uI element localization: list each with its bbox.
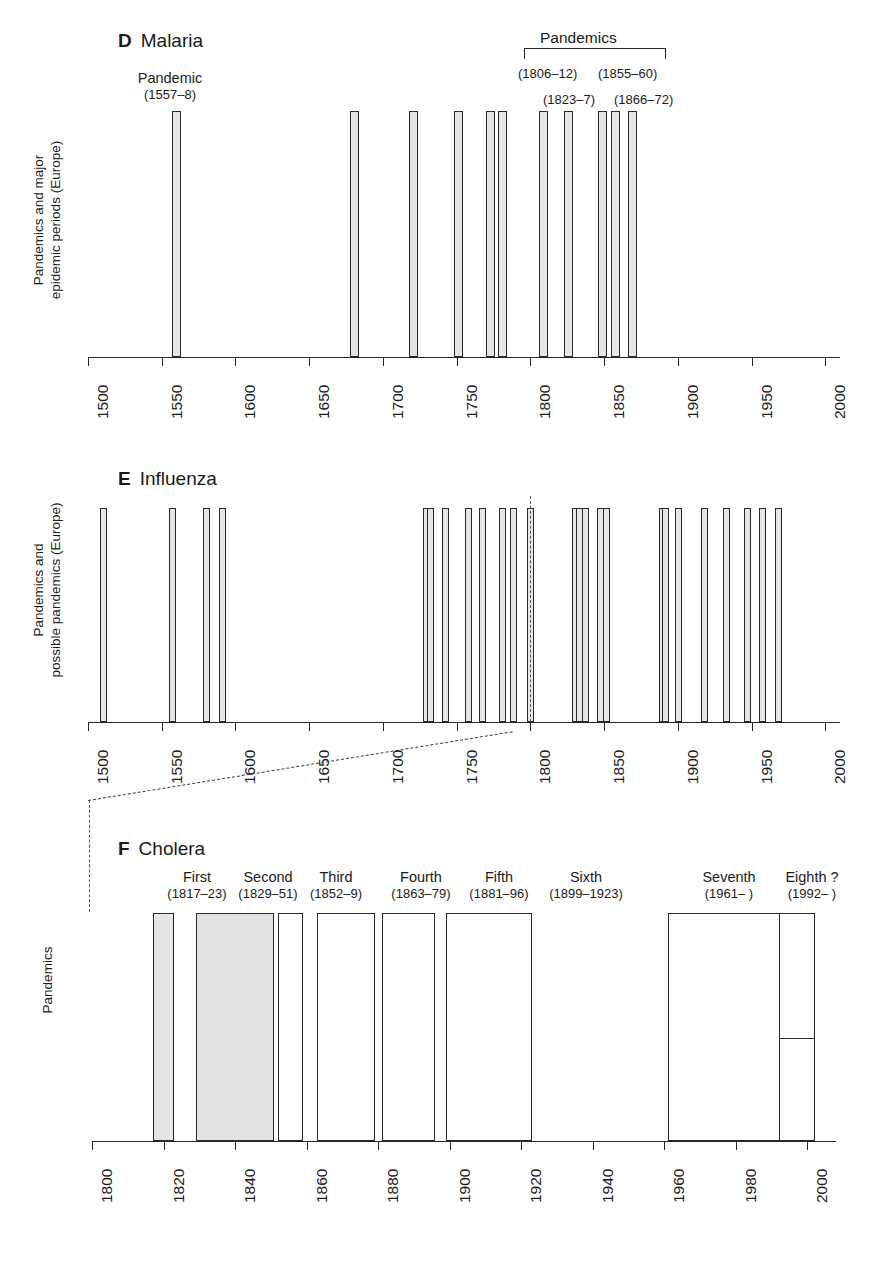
cholera-bar (779, 1038, 815, 1141)
cholera-eighth-marker (779, 913, 780, 1056)
x-axis-tick (307, 1141, 308, 1150)
x-axis-tick-label: 1840 (241, 1169, 259, 1203)
x-axis-tick-label: 1860 (313, 1169, 331, 1203)
panel-f-plot: First(1817–23)Second(1829–51)Third(1852–… (0, 0, 879, 1274)
x-axis-line (92, 1141, 836, 1142)
cholera-bar (153, 913, 174, 1141)
x-axis-tick (164, 1141, 165, 1150)
cholera-annotation-name: Sixth (534, 869, 638, 886)
x-axis-tick-label: 1900 (456, 1169, 474, 1203)
cholera-annotation-years: (1961– ) (690, 886, 768, 902)
cholera-annotation-years: (1881–96) (462, 886, 536, 902)
cholera-annotation-years: (1992– ) (772, 886, 852, 902)
cholera-annotation-name: Fifth (462, 869, 536, 886)
cholera-annotation-years: (1863–79) (378, 886, 464, 902)
connector-vertical-dash (89, 800, 90, 912)
cholera-bar (382, 913, 436, 1141)
x-axis-tick (593, 1141, 594, 1150)
cholera-annotation: Seventh(1961– ) (690, 869, 768, 902)
x-axis-tick (664, 1141, 665, 1150)
cholera-annotation: Sixth(1899–1923) (534, 869, 638, 902)
x-axis-tick-label: 1940 (599, 1169, 617, 1203)
cholera-annotation-name: Eighth ? (772, 869, 852, 886)
x-axis-tick-label: 1880 (384, 1169, 402, 1203)
x-axis-tick-label: 1820 (170, 1169, 188, 1203)
x-axis-tick-label: 1800 (98, 1169, 116, 1203)
cholera-bar (317, 913, 374, 1141)
x-axis-tick-label: 1920 (527, 1169, 545, 1203)
cholera-bar (278, 913, 303, 1141)
cholera-bar (196, 913, 275, 1141)
x-axis-tick (521, 1141, 522, 1150)
cholera-annotation-name: Seventh (690, 869, 768, 886)
x-axis-tick (450, 1141, 451, 1150)
x-axis-tick (92, 1141, 93, 1150)
cholera-annotation-years: (1852–9) (300, 886, 372, 902)
x-axis-tick (235, 1141, 236, 1150)
cholera-annotation: Third(1852–9) (300, 869, 372, 902)
cholera-annotation-name: Third (300, 869, 372, 886)
cholera-annotation-name: Fourth (378, 869, 464, 886)
cholera-annotation: Fourth(1863–79) (378, 869, 464, 902)
x-axis-tick-label: 1960 (670, 1169, 688, 1203)
x-axis-tick (378, 1141, 379, 1150)
x-axis-tick (807, 1141, 808, 1150)
x-axis-tick-label: 2000 (813, 1169, 831, 1203)
cholera-bar (446, 913, 532, 1141)
x-axis-tick-label: 1980 (742, 1169, 760, 1203)
cholera-annotation: Eighth ?(1992– ) (772, 869, 852, 902)
cholera-annotation: Fifth(1881–96) (462, 869, 536, 902)
x-axis-tick (736, 1141, 737, 1150)
cholera-annotation-years: (1899–1923) (534, 886, 638, 902)
